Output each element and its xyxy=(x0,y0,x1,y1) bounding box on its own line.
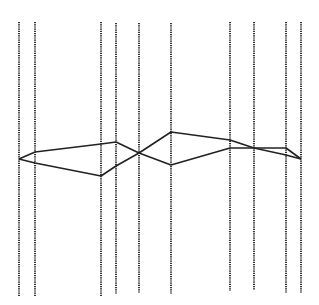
axes-group xyxy=(19,22,301,296)
series-group xyxy=(19,132,301,176)
parallel-coordinates-chart xyxy=(0,0,319,305)
line-1 xyxy=(19,132,301,159)
line-2 xyxy=(19,148,301,176)
